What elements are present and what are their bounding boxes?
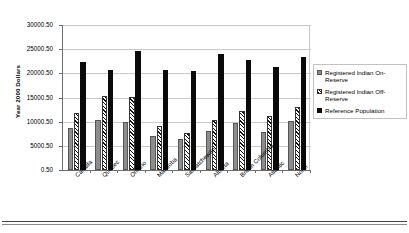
legend-swatch-icon <box>317 108 322 113</box>
bar <box>95 120 100 170</box>
chart-legend: Registered Indian On-ReserveRegistered I… <box>313 64 407 119</box>
bar <box>178 139 183 170</box>
bar-group <box>283 25 311 170</box>
x-axis-tick <box>200 170 201 173</box>
bar <box>74 113 79 170</box>
bar <box>273 67 278 170</box>
bar <box>301 57 306 170</box>
legend-item[interactable]: Reference Population <box>317 107 404 114</box>
x-axis-tick <box>172 170 173 173</box>
legend-item[interactable]: Registered Indian On-Reserve <box>317 69 404 84</box>
bar-group <box>173 25 201 170</box>
bar <box>239 111 244 170</box>
bar-group <box>91 25 119 170</box>
y-axis-tick-label: 20000.50 <box>0 69 53 76</box>
bar <box>123 122 128 170</box>
bar-group <box>118 25 146 170</box>
x-axis-tick <box>117 170 118 173</box>
bar <box>288 121 293 170</box>
bar <box>212 120 217 170</box>
bar <box>135 51 140 170</box>
page-divider <box>2 221 407 222</box>
legend-item[interactable]: Registered Indian Off-Reserve <box>317 88 404 103</box>
y-axis-tick <box>59 170 63 171</box>
x-axis-tick <box>282 170 283 173</box>
bar <box>80 62 85 170</box>
y-axis-tick-label: 0.50 <box>0 166 53 173</box>
legend-item-label: Registered Indian On-Reserve <box>325 69 404 84</box>
bar <box>157 126 162 170</box>
chart-container: Year 2000 Dollars 0.505000.5010000.50150… <box>0 0 409 233</box>
legend-item-label: Registered Indian Off-Reserve <box>325 88 404 103</box>
bar <box>191 71 196 170</box>
bar-group <box>228 25 256 170</box>
y-axis-tick-label: 5000.50 <box>0 142 53 149</box>
x-axis-tick <box>145 170 146 173</box>
x-axis-tick <box>90 170 91 173</box>
x-axis-tick <box>227 170 228 173</box>
x-axis-tick <box>255 170 256 173</box>
y-axis-title: Year 2000 Dollars <box>14 42 21 142</box>
y-axis-tick-label: 25000.50 <box>0 45 53 52</box>
bar <box>295 107 300 170</box>
bar <box>150 136 155 170</box>
y-axis-tick-label: 10000.50 <box>0 118 53 125</box>
legend-swatch-icon <box>317 89 322 94</box>
y-axis-tick-label: 30000.50 <box>0 21 53 28</box>
bar <box>108 70 113 170</box>
bar <box>218 54 223 170</box>
bar <box>102 96 107 170</box>
bar <box>129 97 134 170</box>
bar-group <box>63 25 91 170</box>
bar <box>163 70 168 170</box>
y-axis-tick-label: 15000.50 <box>0 94 53 101</box>
x-axis-tick <box>310 170 311 173</box>
legend-item-label: Reference Population <box>325 107 385 114</box>
bar <box>68 128 73 170</box>
page-divider-secondary <box>2 224 407 225</box>
bar <box>246 60 251 170</box>
bar-group <box>146 25 174 170</box>
bar <box>184 133 189 170</box>
legend-swatch-icon <box>317 70 322 75</box>
bar <box>233 123 238 170</box>
